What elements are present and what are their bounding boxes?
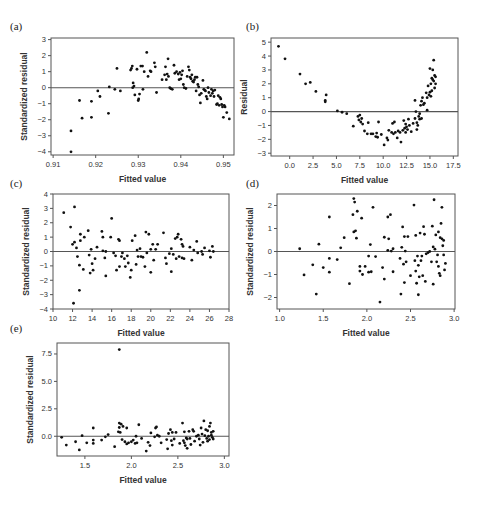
y-tick-label: 2.5 xyxy=(42,404,52,413)
data-point xyxy=(153,61,156,64)
data-point xyxy=(367,121,370,124)
y-tick-label: 7.5 xyxy=(42,349,52,358)
x-tick-label: 0.95 xyxy=(216,160,231,169)
data-point xyxy=(348,282,351,285)
data-point xyxy=(129,276,132,279)
data-point xyxy=(410,130,413,133)
y-tick-label: −3 xyxy=(257,149,266,158)
data-point xyxy=(367,255,370,258)
data-point xyxy=(154,248,157,251)
data-point xyxy=(383,143,386,146)
data-point xyxy=(380,133,383,136)
data-point xyxy=(136,249,139,252)
data-point xyxy=(432,80,435,83)
data-point xyxy=(418,112,421,115)
data-point xyxy=(423,102,426,105)
y-tick-label: −1 xyxy=(257,121,266,130)
data-point xyxy=(142,256,145,259)
data-point xyxy=(79,233,82,236)
data-point xyxy=(162,231,165,234)
y-axis-label: Standardized residual xyxy=(25,355,35,443)
y-tick-label: 1 xyxy=(42,67,46,76)
data-point xyxy=(178,255,181,258)
data-point xyxy=(183,430,186,433)
data-point xyxy=(158,435,161,438)
data-point xyxy=(386,249,389,252)
data-point xyxy=(372,132,375,135)
y-tick-label: 1 xyxy=(262,93,266,102)
y-axis-label: Standardized residual xyxy=(21,207,31,295)
data-point xyxy=(113,445,116,448)
data-point xyxy=(182,83,185,86)
data-point xyxy=(405,260,408,263)
data-point xyxy=(424,280,427,283)
data-point xyxy=(116,67,119,70)
data-point xyxy=(436,254,439,257)
data-point xyxy=(427,84,430,87)
data-point xyxy=(85,441,88,444)
data-point xyxy=(428,250,431,253)
x-axis-label: Fitted value xyxy=(119,475,167,485)
data-point xyxy=(207,435,210,438)
data-point xyxy=(324,100,327,103)
x-tick-label: 14 xyxy=(88,314,96,323)
x-tick-label: 3.0 xyxy=(219,461,229,470)
data-point xyxy=(92,439,95,442)
data-point xyxy=(132,439,135,442)
data-point xyxy=(120,255,123,258)
data-point xyxy=(171,88,174,91)
data-point xyxy=(434,234,437,237)
x-axis-label: Fitted value xyxy=(117,328,165,338)
plot-panel-a: 0.910.920.930.940.95−4−3−2−10123Fitted v… xyxy=(19,35,234,184)
data-point xyxy=(140,437,143,440)
data-point xyxy=(137,98,140,101)
data-point xyxy=(100,439,103,442)
data-point xyxy=(143,70,146,73)
data-point xyxy=(81,117,84,120)
data-point xyxy=(207,91,210,94)
data-point xyxy=(126,254,129,257)
data-point xyxy=(175,257,178,260)
data-point xyxy=(392,270,395,273)
data-point xyxy=(163,73,166,76)
data-point xyxy=(352,197,355,200)
data-point xyxy=(203,434,206,437)
data-point xyxy=(374,255,377,258)
data-point xyxy=(175,431,178,434)
data-point xyxy=(426,109,429,112)
data-point xyxy=(209,94,212,97)
data-point xyxy=(113,88,116,91)
data-point xyxy=(82,268,85,271)
data-point xyxy=(402,263,405,266)
data-point xyxy=(417,264,420,267)
data-point xyxy=(393,121,396,124)
data-point xyxy=(167,75,170,78)
data-point xyxy=(443,269,446,272)
data-point xyxy=(78,99,81,102)
data-point xyxy=(88,254,91,257)
data-point xyxy=(104,275,107,278)
data-point xyxy=(74,440,77,443)
y-tick-label: −4 xyxy=(37,147,46,156)
data-point xyxy=(124,265,127,268)
data-point xyxy=(79,239,82,242)
data-point xyxy=(403,235,406,238)
data-point xyxy=(185,87,188,90)
data-point xyxy=(177,233,180,236)
data-point xyxy=(175,70,178,73)
data-point xyxy=(203,247,206,250)
data-point xyxy=(114,254,117,257)
data-point xyxy=(431,69,434,72)
data-point xyxy=(224,106,227,109)
x-tick-label: 28 xyxy=(225,314,233,323)
data-point xyxy=(201,433,204,436)
data-point xyxy=(168,252,171,255)
y-tick-label: −2 xyxy=(37,115,46,124)
data-point xyxy=(189,443,192,446)
data-point xyxy=(437,265,440,268)
data-point xyxy=(219,98,222,101)
data-point xyxy=(156,243,159,246)
data-point xyxy=(386,139,389,142)
data-point xyxy=(100,230,103,233)
data-point xyxy=(372,206,375,209)
